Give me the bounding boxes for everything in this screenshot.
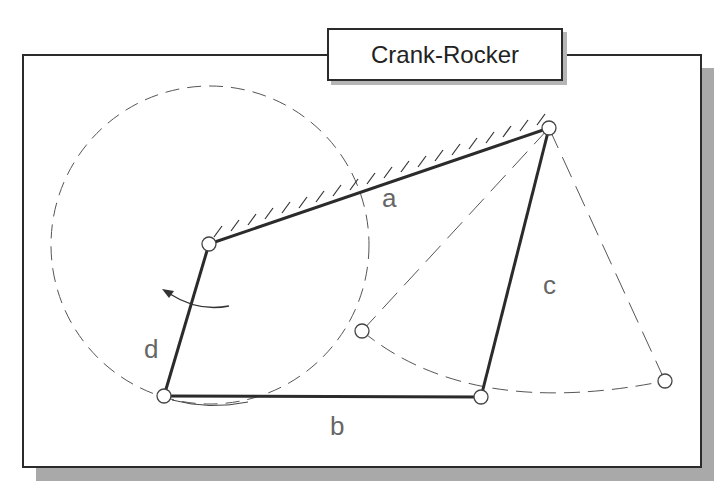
- rotation-arrow: [170, 294, 229, 308]
- joint-rocker-extreme-right: [658, 374, 672, 388]
- crank-angle-arc: [172, 400, 248, 406]
- joint-rocker-tip: [474, 390, 488, 404]
- rocker-extreme-right-line: [549, 128, 665, 381]
- link-b-coupler: [164, 396, 481, 397]
- joint-ground-left: [202, 237, 216, 251]
- joint-ground-right: [542, 121, 556, 135]
- label-d: d: [144, 336, 158, 362]
- joint-crank-tip: [157, 389, 171, 403]
- label-b: b: [330, 413, 344, 439]
- link-d-crank: [164, 244, 209, 396]
- label-c: c: [543, 272, 556, 298]
- diagram-title: Crank-Rocker: [327, 28, 563, 81]
- joint-rocker-extreme-left: [355, 324, 369, 338]
- title-text: Crank-Rocker: [371, 41, 519, 69]
- label-a: a: [382, 185, 396, 211]
- rocker-swing-arc: [362, 331, 665, 393]
- link-c-rocker: [481, 128, 549, 397]
- ground-hatch: [214, 114, 545, 237]
- rotation-arrow-head-icon: [162, 289, 174, 298]
- link-a-ground: [209, 128, 549, 244]
